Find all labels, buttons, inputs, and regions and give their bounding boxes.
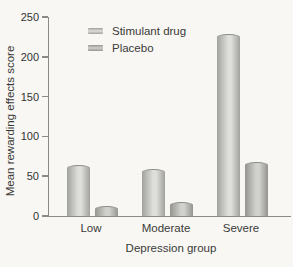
bar-low-stimulant — [67, 165, 90, 216]
legend-item-stimulant: Stimulant drug — [88, 22, 186, 39]
legend: Stimulant drugPlacebo — [88, 22, 186, 56]
y-axis-label: Mean rewarding effects score — [4, 11, 16, 231]
y-tick-mark — [42, 215, 48, 217]
x-tick-label-severe: Severe — [196, 222, 286, 234]
legend-label: Placebo — [112, 42, 154, 54]
y-tick-label: 250 — [7, 10, 39, 24]
bar-moderate-stimulant — [142, 169, 165, 216]
bar-moderate-placebo — [170, 202, 193, 216]
y-tick-label: 0 — [7, 209, 39, 223]
bar-severe-placebo — [245, 162, 268, 216]
legend-label: Stimulant drug — [112, 25, 186, 37]
legend-swatch-icon — [88, 45, 103, 51]
y-tick-label: 50 — [7, 169, 39, 183]
y-tick-mark — [42, 96, 48, 98]
x-axis-label: Depression group — [48, 242, 293, 254]
bar-low-placebo — [95, 206, 118, 216]
y-tick-mark — [42, 56, 48, 58]
y-tick-label: 100 — [7, 129, 39, 143]
bar-severe-stimulant — [217, 34, 240, 216]
y-tick-label: 200 — [7, 50, 39, 64]
y-tick-mark — [42, 136, 48, 138]
y-tick-mark — [42, 175, 48, 177]
legend-item-placebo: Placebo — [88, 39, 186, 56]
y-tick-mark — [42, 16, 48, 18]
figure: Mean rewarding effects score 05010015020… — [0, 0, 293, 267]
y-tick-label: 150 — [7, 90, 39, 104]
legend-swatch-icon — [88, 28, 103, 34]
